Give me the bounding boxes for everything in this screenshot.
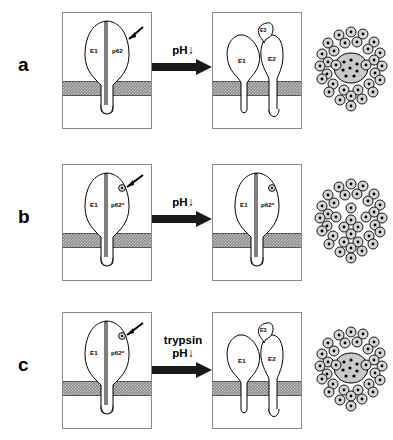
transition-arrow-icon — [152, 362, 214, 378]
row-letter-a: a — [18, 55, 29, 74]
row-c-left-panel: E1 p62* — [62, 312, 152, 429]
row-b-mid-panel: E1 p62* — [212, 164, 302, 281]
label-E3: E3 — [260, 327, 266, 333]
label-E3: E3 — [260, 27, 266, 33]
arrow-label-ph: pH↓ — [152, 196, 214, 209]
pointer-head — [127, 328, 134, 335]
row-a-left-panel: E1 p62 — [62, 12, 152, 129]
spike-dissociated: E1 E2 E3 — [213, 313, 301, 428]
row-c-arrow-block: trypsin pH↓ — [152, 334, 214, 382]
label-E1: E1 — [240, 201, 248, 208]
down-arrow-glyph: ↓ — [188, 195, 194, 209]
row-a-arrow-block: pH↓ — [152, 44, 214, 79]
transition-arrow-icon — [152, 59, 214, 75]
label-E2: E2 — [268, 355, 276, 362]
label-p62-star: p62* — [111, 201, 125, 208]
label-E2: E2 — [268, 55, 276, 62]
label-p62: p62 — [112, 47, 123, 54]
transition-arrow-icon — [152, 211, 214, 227]
down-arrow-glyph: ↓ — [188, 346, 194, 360]
row-letter-b: b — [18, 207, 30, 226]
figure-row-a: a E1 p62 pH↓ E1 E2 — [0, 0, 393, 140]
spike-heterodimer-closed: E1 p62 — [63, 13, 151, 128]
label-E1: E1 — [238, 57, 246, 64]
label-E1: E1 — [90, 201, 98, 208]
pointer-head — [127, 180, 134, 187]
down-arrow-glyph: ↓ — [188, 43, 194, 57]
spike-heterodimer-unchanged: E1 p62* — [213, 165, 301, 280]
label-E1: E1 — [90, 349, 98, 356]
label-p62-star: p62* — [261, 201, 275, 208]
arrow-label-ph: pH↓ — [152, 44, 214, 57]
arrow-label-ph: pH↓ — [152, 347, 214, 360]
label-E1: E1 — [90, 47, 98, 54]
row-b-left-panel: E1 p62* — [62, 164, 152, 281]
spike-heterodimer-closed: E1 p62* — [63, 313, 151, 428]
figure-row-b: b E1 p62* pH↓ E1 — [0, 152, 393, 292]
row-b-virus-cluster — [310, 170, 392, 270]
row-letter-c: c — [18, 355, 29, 374]
row-a-virus-cluster — [310, 18, 392, 118]
row-b-arrow-block: pH↓ — [152, 196, 214, 231]
arrow-label-trypsin: trypsin — [152, 334, 214, 347]
pointer-head — [129, 32, 136, 39]
virus-particle-cluster-with-core — [310, 318, 392, 418]
row-c-virus-cluster — [310, 318, 392, 418]
spike-heterodimer-closed: E1 p62* — [63, 165, 151, 280]
virus-particle-cluster-with-core — [310, 18, 392, 118]
label-E1: E1 — [238, 357, 246, 364]
row-c-mid-panel: E1 E2 E3 — [212, 312, 302, 429]
virus-particle-cluster-no-core — [310, 170, 392, 270]
label-p62-star: p62* — [111, 349, 125, 356]
row-a-mid-panel: E1 E2 E3 — [212, 12, 302, 129]
figure-row-c: c E1 p62* trypsin pH↓ — [0, 300, 393, 440]
spike-dissociated: E1 E2 E3 — [213, 13, 301, 128]
